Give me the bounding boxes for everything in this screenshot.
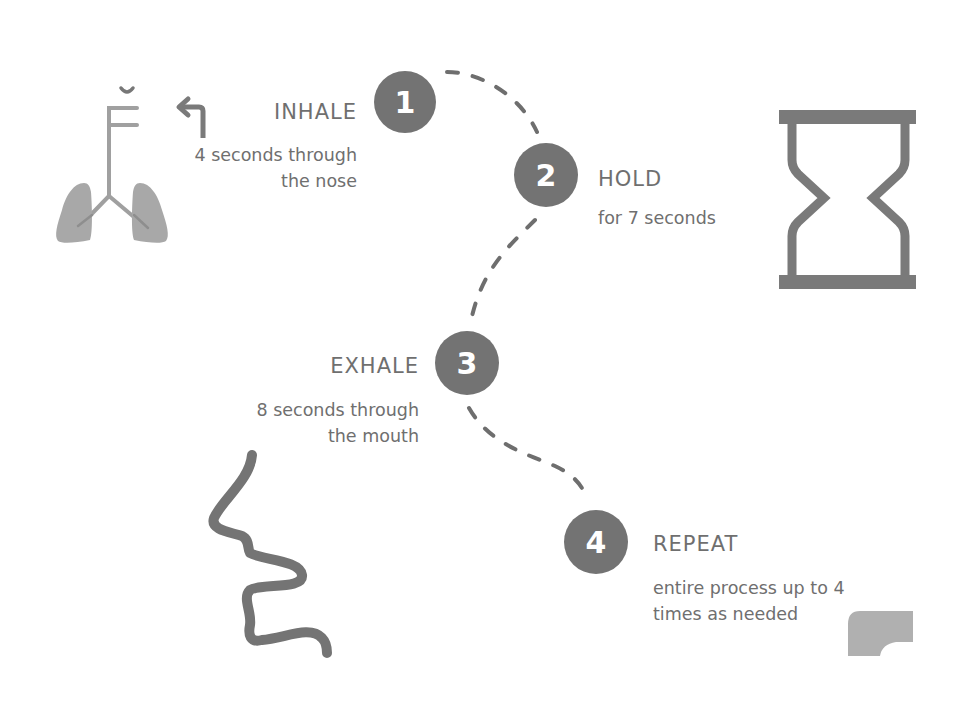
step-4-description-line-1: entire process up to 4	[653, 575, 845, 601]
step-3-number: 3	[457, 346, 478, 381]
step-2-title: HOLD	[598, 167, 662, 191]
lungs-icon	[56, 88, 168, 243]
step-2-description: for 7 seconds	[598, 205, 716, 231]
step-2-number: 2	[536, 158, 557, 193]
dashed-connector-paths	[447, 72, 585, 494]
step-2-description-line-1: for 7 seconds	[598, 205, 716, 231]
connector-1-to-2	[447, 72, 537, 132]
step-4-description: entire process up to 4 times as needed	[653, 575, 845, 627]
step-3-description: 8 seconds through the mouth	[256, 397, 419, 449]
step-4-description-line-2: times as needed	[653, 601, 845, 627]
step-1-marker: 1	[374, 71, 436, 133]
connector-3-to-4	[469, 408, 585, 494]
step-1-description-line-1: 4 seconds through	[194, 142, 357, 168]
hourglass-icon	[779, 110, 916, 289]
turn-left-arrow-icon	[179, 99, 203, 138]
step-4-number: 4	[586, 525, 607, 560]
chevron-down-icon	[121, 88, 133, 92]
step-3-description-line-2: the mouth	[256, 423, 419, 449]
connector-2-to-3	[470, 220, 535, 326]
step-4-title: REPEAT	[653, 532, 738, 556]
step-3-description-line-1: 8 seconds through	[256, 397, 419, 423]
rounded-corner-shape-icon	[848, 611, 913, 656]
step-1-title: INHALE	[274, 100, 357, 124]
face-profile-icon	[213, 455, 327, 653]
step-3-title: EXHALE	[330, 354, 419, 378]
step-1-description-line-2: the nose	[194, 168, 357, 194]
step-4-marker: 4	[564, 510, 628, 574]
step-1-number: 1	[395, 85, 416, 120]
step-1-description: 4 seconds through the nose	[194, 142, 357, 194]
step-2-marker: 2	[514, 143, 578, 207]
step-3-marker: 3	[435, 331, 499, 395]
